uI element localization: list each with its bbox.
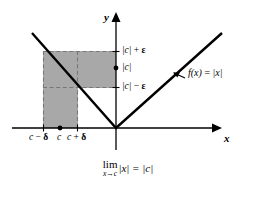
y-tick-abs-c-main: |c| bbox=[122, 62, 131, 72]
limit-absolute-value-figure: y x |c| + ε |c| |c| − ε c − δ c c + δ f(… bbox=[0, 0, 256, 199]
limit-operator: lim x→c bbox=[103, 158, 118, 178]
point-marker-c bbox=[58, 126, 63, 131]
caption-expression: |x| = |c| bbox=[118, 162, 153, 174]
x-tick-c-main: c bbox=[57, 132, 61, 142]
x-tick-c-minus-delta-op: − bbox=[33, 132, 43, 142]
y-axis-label: y bbox=[104, 12, 109, 23]
y-tick-abs-c-plus-epsilon-sym: ε bbox=[142, 45, 146, 55]
function-label-expr: |x| bbox=[213, 67, 223, 78]
function-label-eq: = bbox=[202, 67, 213, 78]
x-tick-label-c-plus-delta: c + δ bbox=[67, 133, 86, 143]
y-tick-label-abs-c: |c| bbox=[122, 63, 131, 73]
y-tick-abs-c-minus-epsilon-sym: ε bbox=[142, 81, 146, 91]
x-tick-c-minus-delta-sym: δ bbox=[43, 132, 48, 142]
x-tick-c-plus-delta-op: + bbox=[71, 132, 81, 142]
x-tick-c-plus-delta-sym: δ bbox=[81, 132, 86, 142]
y-tick-label-abs-c-plus-epsilon: |c| + ε bbox=[122, 46, 146, 56]
x-axis-label: x bbox=[224, 133, 230, 144]
x-tick-label-c-minus-delta: c − δ bbox=[29, 133, 48, 143]
x-axis-arrowhead bbox=[212, 124, 222, 133]
y-tick-abs-c-plus-epsilon-op: + bbox=[131, 45, 141, 55]
function-label-arg: (x) bbox=[191, 67, 202, 78]
y-tick-label-abs-c-minus-epsilon: |c| − ε bbox=[122, 82, 146, 92]
point-marker-abs-c bbox=[114, 66, 119, 71]
delta-band bbox=[43, 51, 78, 128]
function-label: f(x) = |x| bbox=[188, 68, 222, 78]
figure-caption: lim x→c |x| = |c| bbox=[0, 158, 256, 178]
limit-operator-subscript: x→c bbox=[103, 169, 118, 178]
y-axis-arrowhead bbox=[112, 12, 121, 22]
y-tick-abs-c-minus-epsilon-op: − bbox=[131, 81, 141, 91]
x-tick-label-c: c bbox=[57, 133, 61, 143]
